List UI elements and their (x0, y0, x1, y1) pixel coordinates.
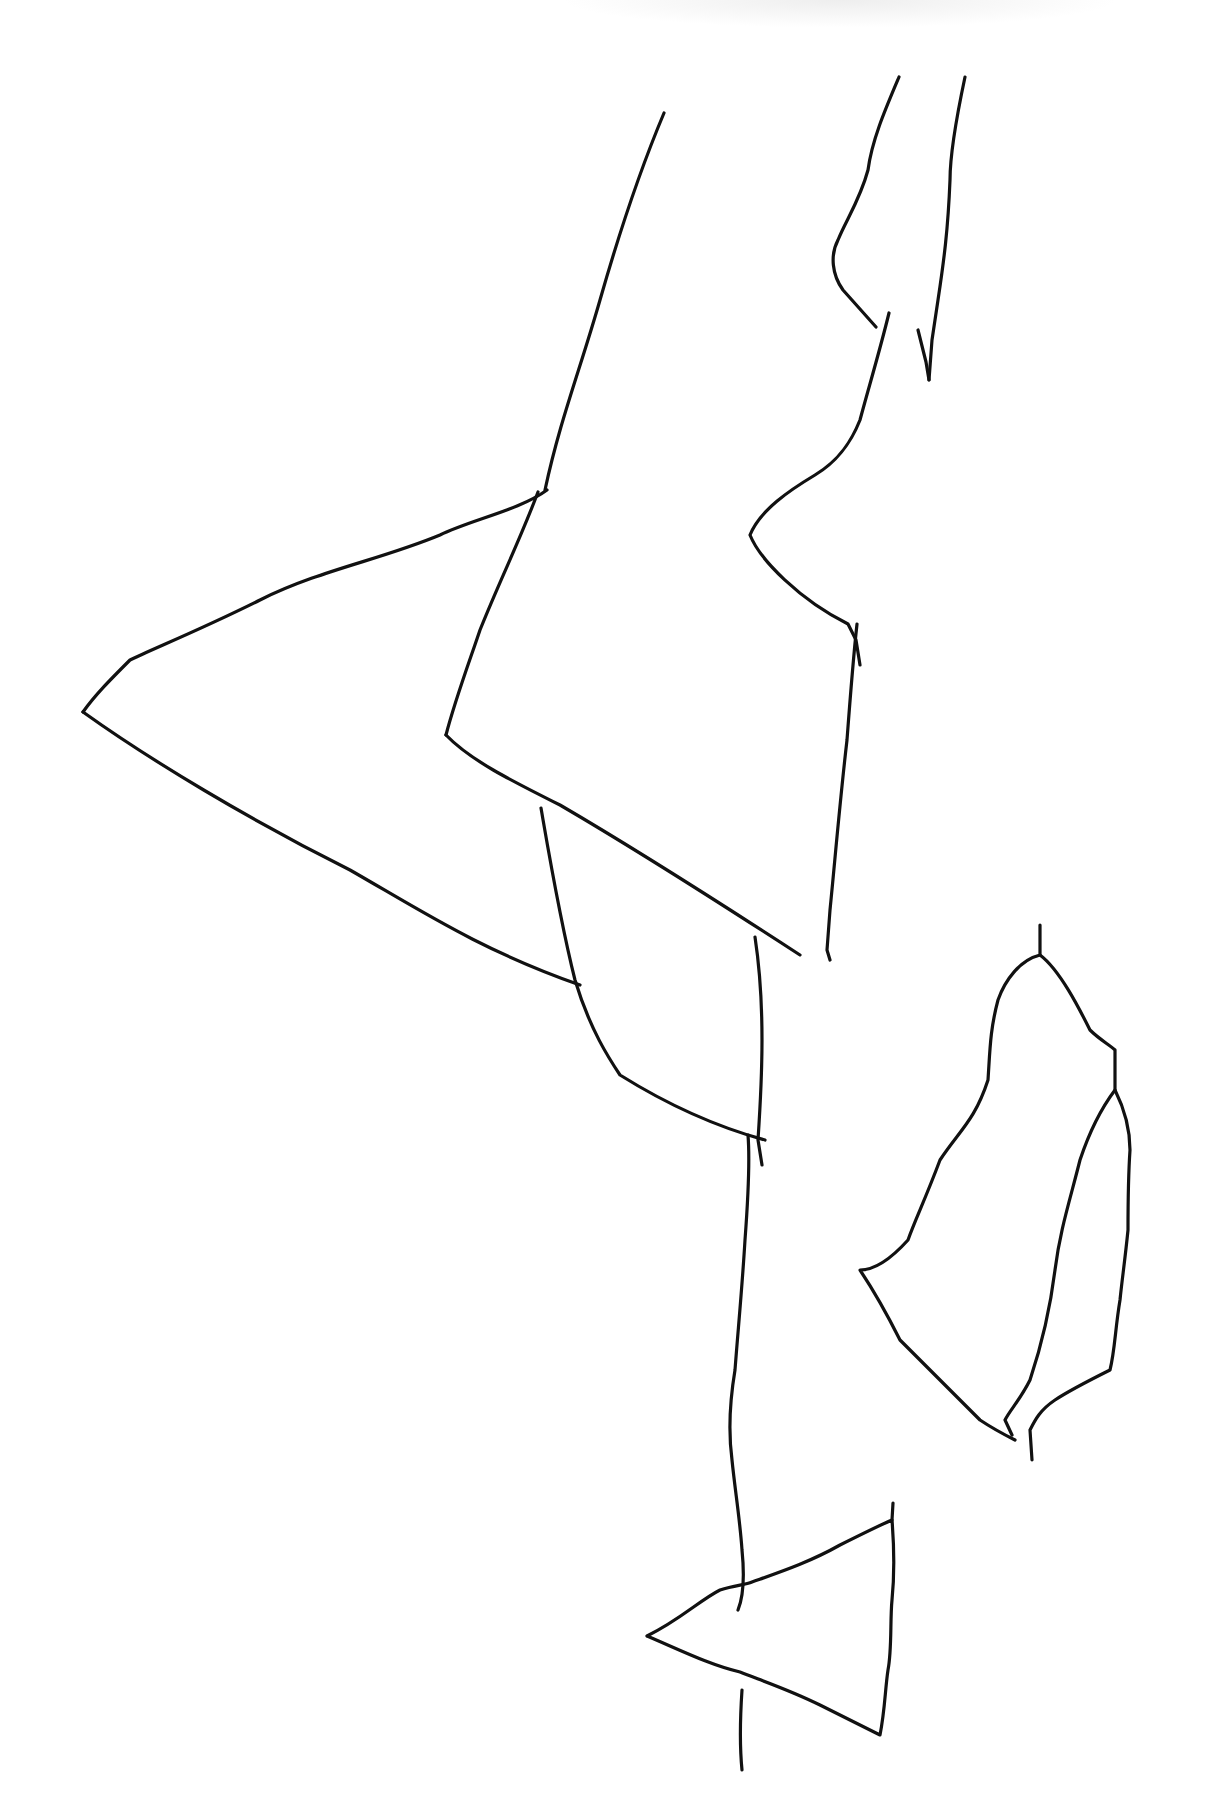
stroke-bottom-triangle (647, 1520, 894, 1735)
sketch-canvas (0, 0, 1213, 1807)
stroke-lower-flap-right (755, 937, 762, 1165)
stroke-mid-vertical-right (827, 624, 857, 960)
stroke-wedge-inner-edge (446, 492, 538, 735)
stroke-mid-right-notch (750, 313, 889, 665)
stroke-leaf-midrib (1005, 1090, 1115, 1435)
stroke-upper-right-right-edge (929, 77, 965, 380)
stroke-trunk-bottom-stub (741, 1690, 743, 1770)
stroke-upper-branch-to-notch (918, 330, 929, 380)
sketch-strokes (83, 77, 1130, 1770)
stroke-big-wedge-top (83, 490, 547, 712)
stroke-trunk-left (730, 1135, 749, 1610)
stroke-upper-right-left-edge (833, 77, 899, 327)
stroke-bottom-triangle-top-stub (892, 1503, 893, 1520)
stroke-leaf-right-edge (1030, 955, 1130, 1460)
stroke-lower-flap-left (541, 808, 765, 1140)
stroke-leaf-outer (860, 925, 1040, 1440)
stroke-central-parallelogram-bottom (446, 735, 800, 955)
stroke-big-wedge-bottom (83, 712, 580, 985)
stroke-left-long-edge (545, 113, 664, 490)
